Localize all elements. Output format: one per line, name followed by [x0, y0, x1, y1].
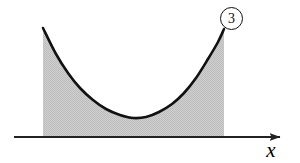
- shaded-region: [43, 28, 224, 137]
- callout-badge-label: 3: [228, 12, 235, 26]
- figure-root: x 3: [0, 0, 300, 163]
- callout-badge-3: 3: [220, 7, 243, 30]
- figure-canvas: [0, 0, 300, 163]
- x-axis-label: x: [258, 140, 284, 161]
